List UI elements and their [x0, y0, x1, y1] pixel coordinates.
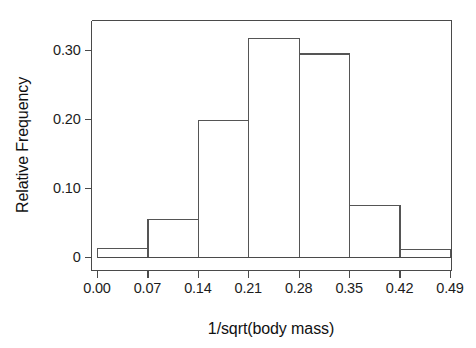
- histogram-bar: [350, 206, 400, 258]
- plot-canvas: 00.100.200.30 0.000.070.140.210.280.350.…: [0, 0, 476, 348]
- y-tick-group: 00.100.200.30: [53, 42, 91, 265]
- x-tick-label: 0.49: [436, 280, 464, 296]
- x-tick-label: 0.35: [335, 280, 363, 296]
- y-axis-label: Relative Frequency: [14, 77, 31, 213]
- x-tick-label: 0.14: [184, 280, 212, 296]
- x-tick-group: 0.000.070.140.210.280.350.420.49: [83, 271, 464, 296]
- x-tick-label: 0.21: [235, 280, 263, 296]
- histogram-bars: [98, 39, 451, 258]
- x-axis-label: 1/sqrt(body mass): [208, 320, 334, 337]
- y-tick-label: 0.10: [53, 180, 81, 196]
- x-axis: 0.000.070.140.210.280.350.420.49: [83, 271, 464, 296]
- x-tick-label: 0.28: [285, 280, 313, 296]
- x-tick-label: 0.00: [83, 280, 111, 296]
- histogram-bar: [249, 39, 299, 258]
- x-tick-label: 0.07: [134, 280, 162, 296]
- histogram-bar: [98, 249, 148, 258]
- y-tick-label: 0.20: [53, 111, 81, 127]
- y-tick-label: 0.30: [53, 42, 81, 58]
- histogram-bar: [299, 54, 349, 258]
- histogram-bar: [198, 121, 248, 258]
- histogram-figure: 00.100.200.30 0.000.070.140.210.280.350.…: [0, 0, 476, 348]
- y-tick-label: 0: [73, 249, 81, 265]
- histogram-bar: [148, 220, 198, 258]
- histogram-bar: [400, 249, 450, 257]
- x-tick-label: 0.42: [386, 280, 414, 296]
- y-axis: 00.100.200.30: [53, 21, 91, 271]
